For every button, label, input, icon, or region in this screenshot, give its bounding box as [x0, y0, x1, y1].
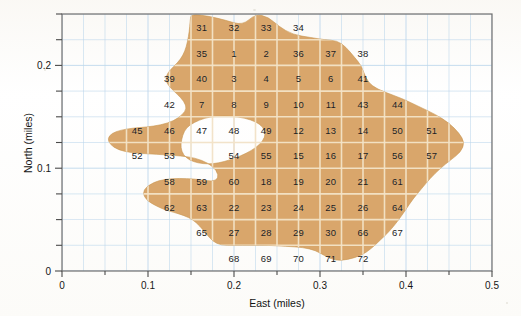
cell-number-3: 3: [231, 73, 236, 84]
scan-artifact: [44, 69, 46, 71]
scan-artifact: [253, 9, 256, 11]
cell-number-1: 1: [231, 47, 236, 58]
cell-number-5: 5: [296, 73, 301, 84]
cell-number-37: 37: [325, 47, 336, 58]
cell-number-61: 61: [392, 176, 403, 187]
cell-number-34: 34: [293, 21, 304, 32]
cell-number-9: 9: [264, 98, 269, 109]
cell-number-19: 19: [293, 176, 304, 187]
cell-number-48: 48: [229, 124, 240, 135]
x-tick-label-0: 0: [59, 280, 65, 291]
cell-number-69: 69: [261, 253, 272, 264]
x-tick-label-4: 0.4: [399, 280, 413, 291]
cell-number-71: 71: [325, 253, 336, 264]
cell-number-55: 55: [261, 150, 272, 161]
cell-number-27: 27: [229, 227, 240, 238]
cell-number-67: 67: [392, 227, 403, 238]
cell-number-20: 20: [325, 176, 336, 187]
cell-number-30: 30: [325, 227, 336, 238]
figure-map-study-area: 3132333435123637383940345641427891011434…: [0, 0, 521, 316]
cell-number-7: 7: [199, 98, 204, 109]
cell-number-4: 4: [264, 73, 269, 84]
cell-number-38: 38: [358, 47, 369, 58]
cell-number-46: 46: [164, 124, 175, 135]
cell-number-52: 52: [132, 150, 143, 161]
cell-number-57: 57: [426, 150, 437, 161]
cell-number-6: 6: [328, 73, 333, 84]
cell-number-43: 43: [358, 98, 369, 109]
cell-number-63: 63: [196, 201, 207, 212]
cell-number-12: 12: [293, 124, 304, 135]
cell-number-21: 21: [358, 176, 369, 187]
cell-number-70: 70: [293, 253, 304, 264]
cell-number-22: 22: [229, 201, 240, 212]
cell-number-59: 59: [196, 176, 207, 187]
cell-number-24: 24: [293, 201, 304, 212]
cell-number-65: 65: [196, 227, 207, 238]
cell-number-29: 29: [293, 227, 304, 238]
cell-number-50: 50: [392, 124, 403, 135]
cell-number-49: 49: [261, 124, 272, 135]
cell-number-18: 18: [261, 176, 272, 187]
x-tick-label-1: 0.1: [141, 280, 155, 291]
cell-number-17: 17: [358, 150, 369, 161]
cell-number-41: 41: [358, 73, 369, 84]
cell-number-23: 23: [261, 201, 272, 212]
cell-number-2: 2: [264, 47, 269, 58]
cell-number-68: 68: [229, 253, 240, 264]
cell-number-42: 42: [164, 98, 175, 109]
cell-number-72: 72: [358, 253, 369, 264]
cell-number-35: 35: [196, 47, 207, 58]
cell-number-10: 10: [293, 98, 304, 109]
x-tick-label-3: 0.3: [313, 280, 327, 291]
cell-number-58: 58: [164, 176, 175, 187]
cell-number-28: 28: [261, 227, 272, 238]
x-tick-label-2: 0.2: [227, 280, 241, 291]
cell-number-26: 26: [358, 201, 369, 212]
cell-number-47: 47: [196, 124, 207, 135]
cell-number-13: 13: [325, 124, 336, 135]
cell-number-51: 51: [426, 124, 437, 135]
cell-number-53: 53: [164, 150, 175, 161]
cell-number-64: 64: [392, 201, 403, 212]
cell-number-31: 31: [196, 21, 207, 32]
y-tick-label-1: 0.1: [37, 163, 51, 174]
cell-number-33: 33: [261, 21, 272, 32]
scan-artifact: [506, 302, 508, 304]
cell-number-14: 14: [358, 124, 369, 135]
cell-number-44: 44: [392, 98, 403, 109]
y-tick-label-0: 0: [45, 266, 51, 277]
cell-number-56: 56: [392, 150, 403, 161]
cell-number-11: 11: [326, 98, 336, 109]
cell-number-36: 36: [293, 47, 304, 58]
cell-number-62: 62: [164, 201, 175, 212]
cell-number-32: 32: [229, 21, 240, 32]
cell-number-54: 54: [229, 150, 240, 161]
cell-number-60: 60: [229, 176, 240, 187]
cell-number-66: 66: [358, 227, 369, 238]
cell-number-15: 15: [293, 150, 304, 161]
x-tick-label-5: 0.5: [485, 280, 499, 291]
x-axis-title: East (miles): [249, 297, 304, 309]
cell-number-39: 39: [164, 73, 175, 84]
cell-number-40: 40: [196, 73, 207, 84]
cell-number-8: 8: [231, 98, 236, 109]
y-axis-title: North (miles): [22, 112, 34, 172]
cell-number-45: 45: [132, 124, 143, 135]
cell-number-25: 25: [325, 201, 336, 212]
cell-number-16: 16: [325, 150, 336, 161]
